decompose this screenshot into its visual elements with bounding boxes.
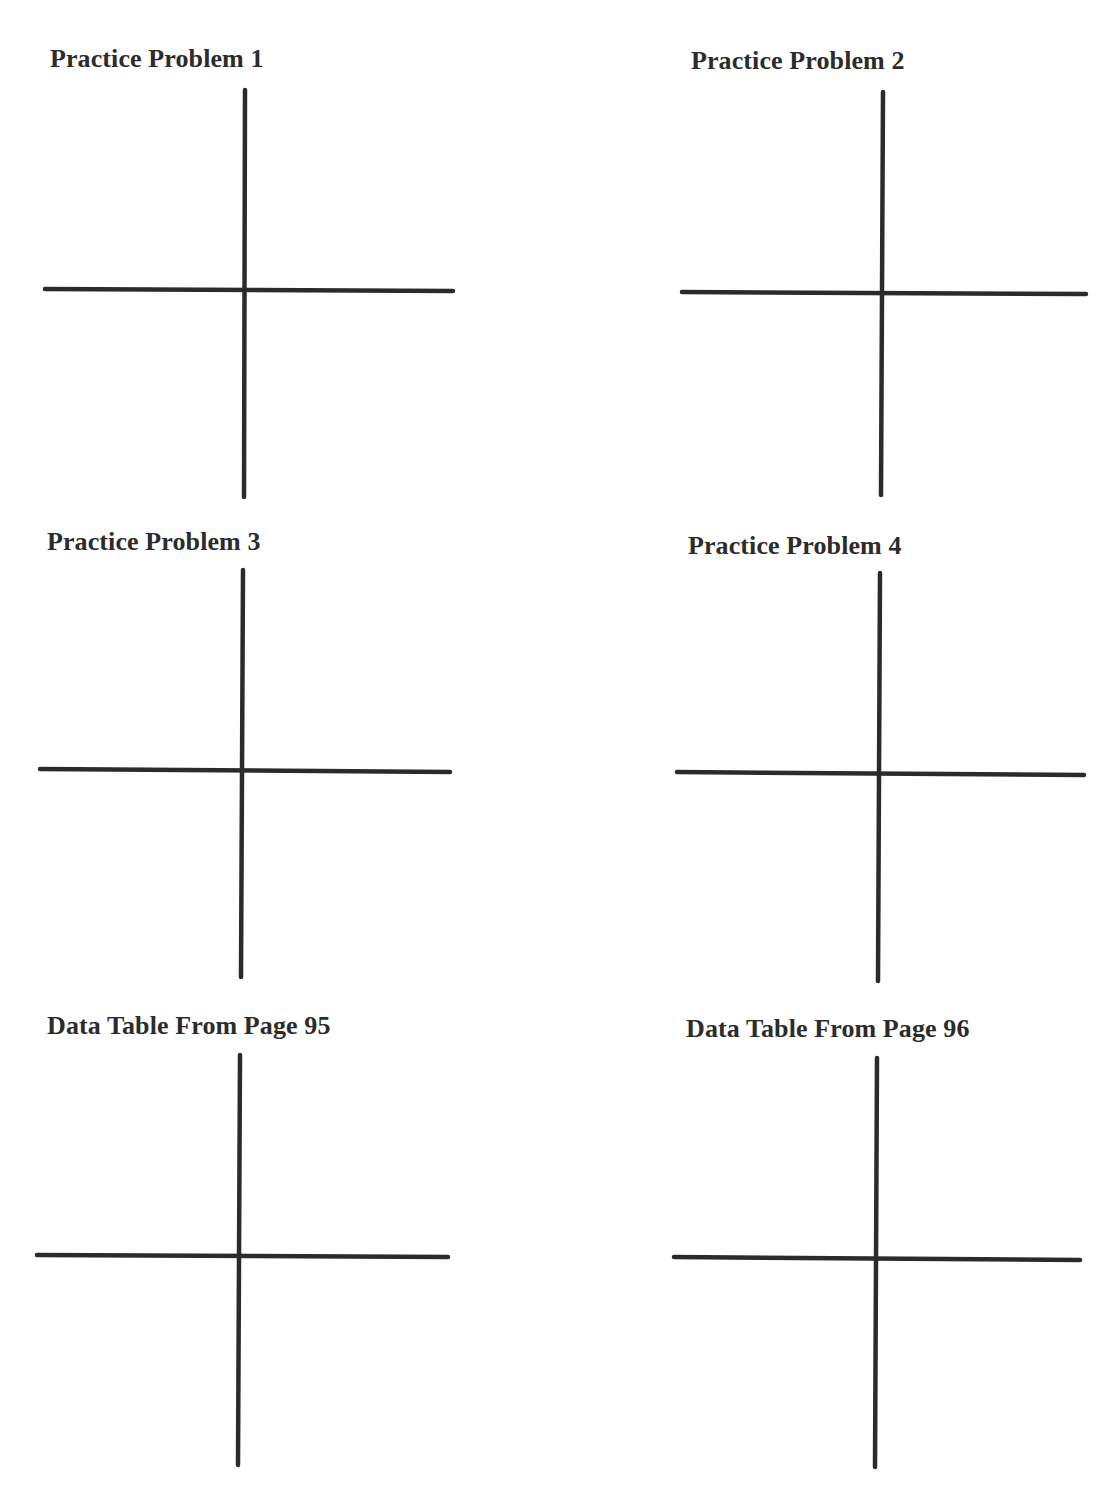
- heading-practice-problem-2: Practice Problem 2: [691, 46, 905, 76]
- worksheet-page: Practice Problem 1 Practice Problem 2 Pr…: [0, 0, 1107, 1488]
- axes-data-table-page-95: [37, 1055, 448, 1465]
- x-axis: [674, 1257, 1080, 1260]
- x-axis: [677, 772, 1084, 775]
- axes-practice-problem-3: [40, 570, 450, 977]
- heading-practice-problem-3: Practice Problem 3: [47, 527, 261, 557]
- y-axis: [881, 92, 883, 495]
- blank-axes-layer: [0, 0, 1107, 1488]
- axes-practice-problem-2: [682, 92, 1086, 495]
- heading-practice-problem-1: Practice Problem 1: [50, 44, 264, 74]
- x-axis: [45, 289, 453, 291]
- x-axis: [40, 769, 450, 772]
- heading-data-table-page-95: Data Table From Page 95: [47, 1011, 330, 1041]
- axes-practice-problem-1: [45, 90, 453, 497]
- axes-practice-problem-4: [677, 573, 1084, 981]
- heading-practice-problem-4: Practice Problem 4: [688, 531, 902, 561]
- y-axis: [244, 90, 245, 497]
- y-axis: [241, 570, 243, 977]
- y-axis: [238, 1055, 240, 1465]
- axes-data-table-page-96: [674, 1058, 1080, 1467]
- y-axis: [878, 573, 880, 981]
- y-axis: [875, 1058, 877, 1467]
- x-axis: [682, 292, 1086, 294]
- x-axis: [37, 1255, 448, 1257]
- heading-data-table-page-96: Data Table From Page 96: [686, 1014, 969, 1044]
